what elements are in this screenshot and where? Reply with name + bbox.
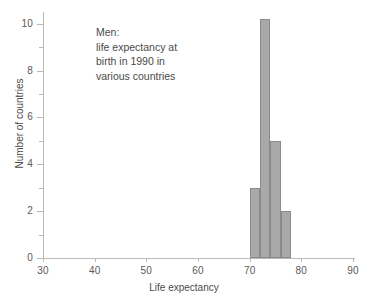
x-axis-tick — [250, 258, 251, 262]
histogram-bar — [260, 19, 270, 258]
histogram-bar — [270, 141, 280, 258]
x-axis-tick-label: 40 — [75, 265, 115, 276]
x-axis-tick-label: 60 — [178, 265, 218, 276]
x-axis-tick — [353, 258, 354, 262]
y-axis-tick — [37, 71, 43, 72]
y-axis-tick — [37, 24, 43, 25]
x-axis-tick — [146, 258, 147, 262]
y-axis-minor-tick — [39, 141, 43, 142]
y-axis-tick — [37, 164, 43, 165]
y-axis-tick — [37, 117, 43, 118]
y-axis-tick-label: 0 — [0, 252, 33, 263]
x-axis-tick-label: 50 — [126, 265, 166, 276]
y-axis-title: Number of countries — [14, 49, 25, 199]
x-axis-tick — [301, 258, 302, 262]
x-axis-tick-label: 70 — [230, 265, 270, 276]
y-axis-tick — [37, 258, 43, 259]
y-axis-minor-tick — [39, 188, 43, 189]
y-axis-tick — [37, 211, 43, 212]
y-axis-minor-tick — [39, 235, 43, 236]
plot-area — [43, 12, 353, 258]
histogram-bar — [281, 211, 291, 258]
histogram-bar — [250, 188, 260, 258]
y-axis-tick-label: 2 — [0, 205, 33, 216]
y-axis-minor-tick — [39, 94, 43, 95]
y-axis-line — [43, 12, 44, 259]
x-axis-tick — [43, 258, 44, 262]
x-axis-tick-label: 80 — [281, 265, 321, 276]
y-axis-tick-label: 10 — [0, 18, 33, 29]
x-axis-title: Life expectancy — [0, 282, 368, 293]
x-axis-tick — [95, 258, 96, 262]
x-axis-tick-label: 90 — [333, 265, 368, 276]
x-axis-tick-label: 30 — [23, 265, 63, 276]
histogram-chart: Men: life expectancy at birth in 1990 in… — [0, 0, 368, 300]
y-axis-minor-tick — [39, 47, 43, 48]
x-axis-line — [43, 258, 355, 259]
x-axis-tick — [198, 258, 199, 262]
